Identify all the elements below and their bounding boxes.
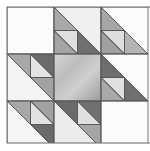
hawk-unit-bottom-left	[7, 101, 54, 148]
hawk-unit-top-middle	[54, 7, 101, 54]
hawk-unit-bottom-middle	[54, 101, 101, 148]
center-square	[54, 54, 101, 101]
hawk-unit-left-middle	[7, 54, 54, 101]
hawk-unit-right-middle	[101, 54, 148, 101]
corner-square-top-left	[7, 7, 54, 54]
hawk-unit-top-right	[101, 7, 148, 54]
quilt-block: Quilt block pattern	[0, 0, 150, 151]
corner-square-bottom-right	[101, 101, 148, 148]
quilt-block-svg	[0, 0, 150, 151]
